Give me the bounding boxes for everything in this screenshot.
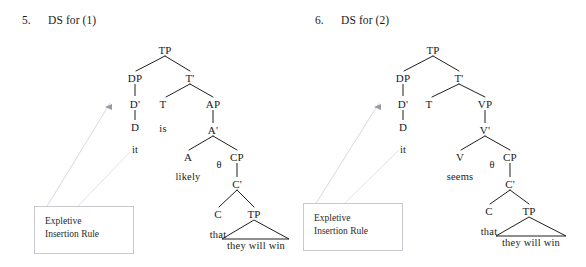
tree-leaf-it: it (132, 144, 138, 155)
figure-6: 6. DS for (2) (293, 0, 586, 267)
tree-leaf-they-will-win: they will win (502, 237, 560, 248)
tree-node-t: T (160, 99, 167, 110)
tree-node-ap: AP (206, 99, 220, 110)
tree-leaf-it: it (400, 144, 406, 155)
tree-leaf-likely: likely (175, 171, 200, 182)
tree-node-dbar: D' (130, 99, 140, 110)
tree-leaf-they-will-win: they will win (227, 240, 285, 251)
theta-role-marker: θ (489, 159, 494, 170)
figure-6-number: 6. (315, 14, 324, 26)
rule-box-line-2: Insertion Rule (314, 225, 402, 238)
tree-node-t: T (426, 99, 433, 110)
tree-leaf-is: is (159, 123, 166, 134)
rule-box-line-2: Insertion Rule (45, 228, 133, 241)
rule-box-line-1: Expletive (45, 215, 133, 228)
tree-node-cbar: C' (505, 179, 515, 190)
expletive-insertion-rule-box: Expletive Insertion Rule (34, 206, 134, 254)
tree-leaf-that: that (481, 226, 498, 237)
figure-page: 5. DS for (1) (0, 0, 586, 267)
tree-node-d: D (399, 122, 407, 133)
tree-node-d: D (131, 122, 139, 133)
tree-node-tp: TP (426, 45, 439, 56)
tree-node-dp: DP (396, 73, 410, 84)
tree-node-c: C (214, 209, 222, 220)
rule-box-line-1: Expletive (314, 212, 402, 225)
tree-leaf-that: that (210, 229, 227, 240)
figure-5-number: 5. (22, 14, 31, 26)
figure-5-title: DS for (1) (48, 14, 96, 26)
tree-node-c: C (485, 206, 493, 217)
tree-node-dp: DP (128, 73, 142, 84)
tree-node-tp-embedded: TP (247, 209, 260, 220)
tree-node-vp: VP (478, 99, 492, 110)
theta-role-marker: θ (216, 159, 221, 170)
tree-node-dbar: D' (398, 99, 408, 110)
tree-node-abar: A' (208, 125, 218, 136)
tree-node-v: V (456, 152, 464, 163)
tree-leaf-seems: seems (447, 171, 474, 182)
expletive-insertion-rule-box: Expletive Insertion Rule (303, 203, 403, 251)
tree-node-vbar: V' (480, 125, 490, 136)
tree-node-cbar: C' (232, 179, 242, 190)
tree-node-tp: TP (158, 45, 171, 56)
tree-node-cp: CP (503, 152, 517, 163)
tree-node-a: A (184, 152, 192, 163)
tree-node-tbar: T' (185, 73, 194, 84)
figure-6-title: DS for (2) (341, 14, 389, 26)
figure-5: 5. DS for (1) (0, 0, 293, 267)
tree-node-tp-embedded: TP (522, 206, 535, 217)
tree-node-tbar: T' (454, 73, 463, 84)
tree-node-cp: CP (230, 152, 244, 163)
